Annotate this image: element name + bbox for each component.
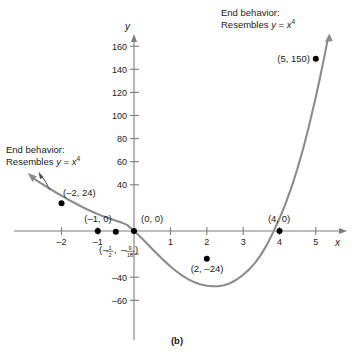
label-point-2-neg24: (2, –24)	[191, 263, 224, 274]
point-origin	[131, 228, 137, 234]
label-point-neghalf: ( – 1 2 , – 9 16 )	[99, 244, 138, 258]
point-5-150	[313, 56, 319, 62]
frac-label-num2: 9	[128, 245, 131, 251]
y-tick-label-160: 160	[112, 42, 127, 52]
y-tick-label-100: 100	[112, 111, 127, 121]
point-neg1-0	[95, 228, 101, 234]
annot-left-prefix: Resembles	[6, 156, 56, 167]
label-point-origin: (0, 0)	[141, 213, 163, 224]
y-tick-label-40: 40	[117, 180, 127, 190]
y-tick-label-140: 140	[112, 65, 127, 75]
figure-caption: (b)	[171, 335, 183, 346]
frac-label-comma: ,	[114, 244, 117, 255]
x-axis-label: x	[334, 237, 341, 248]
annotation-left-end-behavior: End behavior: Resembles y = x4	[6, 144, 81, 190]
x-tick-label-3: 3	[241, 237, 246, 247]
figure-container: –2 –1 1 2 3 4 5 160 140 120 100 80 60 40…	[0, 0, 354, 358]
label-point-neg2-24: (–2, 24)	[63, 187, 96, 198]
annot-right-line1: End behavior:	[221, 7, 280, 18]
x-tick-label--2: –2	[56, 237, 66, 247]
y-tick-label-120: 120	[112, 88, 127, 98]
x-tick-label-5: 5	[313, 237, 318, 247]
quartic-graph: –2 –1 1 2 3 4 5 160 140 120 100 80 60 40…	[0, 0, 354, 358]
annot-right-eq: =	[276, 19, 287, 30]
annot-left-exp: 4	[77, 155, 81, 162]
y-tick-label--60: –60	[112, 296, 127, 306]
x-tick-label-4: 4	[277, 237, 282, 247]
annot-left-line2: Resembles y = x4	[6, 155, 81, 167]
frac-label-close: )	[135, 244, 138, 255]
annot-left-line1: End behavior:	[6, 144, 65, 155]
point-neghalf	[113, 229, 119, 235]
annotation-right-end-behavior: End behavior: Resembles y = x4	[221, 7, 296, 30]
annot-right-exp: 4	[292, 18, 296, 25]
label-point-neg1-0: (–1, 0)	[84, 213, 111, 224]
annot-right-prefix: Resembles	[221, 19, 271, 30]
figure-caption-wrapper: (b)	[0, 330, 354, 348]
frac-label-den1: 2	[108, 252, 111, 258]
y-tick-label-80: 80	[117, 134, 127, 144]
label-point-5-150: (5, 150)	[277, 53, 310, 64]
y-tick-label-60: 60	[117, 157, 127, 167]
annot-right-line2: Resembles y = x4	[221, 18, 296, 30]
y-axis-label: y	[124, 21, 131, 32]
y-axis-arrowhead	[131, 34, 137, 42]
x-tick-label-2: 2	[204, 237, 209, 247]
right-end-arrowhead	[325, 34, 333, 43]
frac-label-num1: 1	[108, 245, 111, 251]
point-neg2-24	[59, 200, 65, 206]
frac-label-den2: 16	[127, 252, 133, 258]
annot-left-eq: =	[61, 156, 72, 167]
point-4-0	[277, 228, 283, 234]
label-point-4-0: (4, 0)	[268, 213, 290, 224]
y-tick-label--40: –40	[112, 273, 127, 283]
x-tick-label-1: 1	[168, 237, 173, 247]
x-axis-arrowhead	[339, 228, 347, 234]
point-2-neg24	[204, 256, 210, 262]
